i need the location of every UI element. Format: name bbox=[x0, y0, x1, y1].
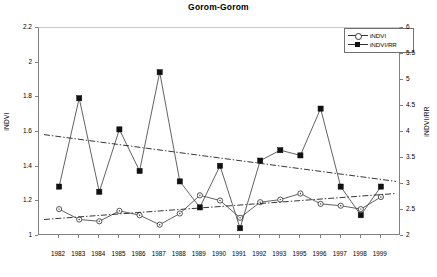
data-point bbox=[358, 213, 363, 218]
data-point bbox=[318, 106, 323, 111]
axis-tick-mark bbox=[340, 235, 341, 238]
axis-tick-mark bbox=[35, 62, 38, 63]
page-title: Gorom-Gorom bbox=[0, 2, 437, 12]
trendline bbox=[44, 135, 396, 182]
axis-tick-mark bbox=[78, 235, 79, 238]
axis-tick-mark bbox=[239, 235, 240, 238]
axis-tick-mark bbox=[35, 235, 38, 236]
axis-tick-label: 5 bbox=[406, 75, 432, 82]
chart-legend: iNDVI iNDVI/RR bbox=[344, 28, 414, 53]
axis-tick-label: 1.4 bbox=[10, 162, 32, 169]
axis-tick-mark bbox=[360, 235, 361, 238]
axis-tick-label: 1999 bbox=[365, 250, 395, 257]
data-point bbox=[238, 226, 243, 231]
axis-tick-mark bbox=[299, 235, 300, 238]
open-circle-marker-icon bbox=[348, 31, 368, 40]
chart-container: { "chart_data": { "type": "line", "title… bbox=[0, 0, 437, 277]
data-point bbox=[338, 184, 343, 189]
axis-tick-mark bbox=[259, 235, 260, 238]
axis-tick-label: 5.5 bbox=[406, 49, 432, 56]
data-point-center bbox=[99, 221, 100, 222]
axis-tick-mark bbox=[400, 183, 403, 184]
data-point bbox=[298, 153, 303, 158]
data-point bbox=[177, 179, 182, 184]
data-point-center bbox=[340, 205, 341, 206]
axis-tick-label: 6 bbox=[406, 23, 432, 30]
data-point-center bbox=[79, 219, 80, 220]
data-point-center bbox=[360, 208, 361, 209]
legend-label: iNDVI/RR bbox=[368, 41, 397, 48]
legend-item-indvi-rr: iNDVI/RR bbox=[348, 40, 410, 49]
data-point bbox=[378, 184, 383, 189]
axis-tick-label: 2.2 bbox=[10, 23, 32, 30]
data-point bbox=[278, 148, 283, 153]
axis-tick-mark bbox=[118, 235, 119, 238]
data-point-center bbox=[58, 208, 59, 209]
axis-tick-mark bbox=[219, 235, 220, 238]
data-point-center bbox=[260, 202, 261, 203]
data-point-center bbox=[239, 217, 240, 218]
data-point-center bbox=[300, 193, 301, 194]
data-point-center bbox=[179, 213, 180, 214]
data-point bbox=[77, 96, 82, 101]
axis-tick-mark bbox=[35, 131, 38, 132]
axis-tick-label: 1.8 bbox=[10, 92, 32, 99]
legend-item-indvi: iNDVI bbox=[348, 31, 410, 40]
solid-square-marker-icon bbox=[348, 40, 368, 49]
data-point bbox=[137, 168, 142, 173]
plot-area bbox=[38, 27, 400, 235]
axis-tick-mark bbox=[35, 27, 38, 28]
axis-tick-mark bbox=[380, 235, 381, 238]
y-axis-left-label: iNDVI bbox=[3, 98, 10, 146]
axis-tick-label: 3 bbox=[406, 179, 432, 186]
axis-tick-label: 3.5 bbox=[406, 153, 432, 160]
data-point-center bbox=[119, 210, 120, 211]
axis-tick-mark bbox=[98, 235, 99, 238]
axis-tick-label: 2 bbox=[10, 58, 32, 65]
axis-tick-mark bbox=[320, 235, 321, 238]
axis-tick-label: 1 bbox=[10, 231, 32, 238]
axis-tick-mark bbox=[35, 166, 38, 167]
data-point bbox=[217, 163, 222, 168]
data-point bbox=[97, 189, 102, 194]
axis-tick-mark bbox=[400, 53, 403, 54]
axis-tick-mark bbox=[400, 79, 403, 80]
axis-tick-mark bbox=[139, 235, 140, 238]
axis-tick-label: 4.5 bbox=[406, 101, 432, 108]
axis-tick-mark bbox=[199, 235, 200, 238]
axis-tick-mark bbox=[400, 131, 403, 132]
axis-tick-label: 2 bbox=[406, 231, 432, 238]
axis-tick-mark bbox=[400, 157, 403, 158]
data-point bbox=[57, 184, 62, 189]
axis-tick-mark bbox=[179, 235, 180, 238]
data-point bbox=[258, 158, 263, 163]
data-point-center bbox=[219, 200, 220, 201]
data-point bbox=[117, 127, 122, 132]
data-point bbox=[197, 205, 202, 210]
data-point-center bbox=[380, 196, 381, 197]
series-indvi bbox=[57, 191, 384, 227]
axis-tick-mark bbox=[400, 105, 403, 106]
axis-tick-mark bbox=[58, 235, 59, 238]
series-layer bbox=[39, 28, 401, 236]
legend-label: iNDVI bbox=[368, 32, 386, 39]
data-point-center bbox=[139, 215, 140, 216]
axis-tick-mark bbox=[400, 27, 403, 28]
axis-tick-label: 2.5 bbox=[406, 205, 432, 212]
data-point bbox=[157, 70, 162, 75]
axis-tick-mark bbox=[400, 209, 403, 210]
axis-tick-mark bbox=[159, 235, 160, 238]
data-point-center bbox=[159, 224, 160, 225]
data-point-center bbox=[320, 203, 321, 204]
axis-tick-mark bbox=[35, 200, 38, 201]
axis-tick-mark bbox=[400, 235, 403, 236]
axis-tick-label: 1.6 bbox=[10, 127, 32, 134]
axis-tick-mark bbox=[279, 235, 280, 238]
data-point-center bbox=[199, 195, 200, 196]
data-point-center bbox=[280, 199, 281, 200]
axis-tick-mark bbox=[35, 96, 38, 97]
axis-tick-label: 4 bbox=[406, 127, 432, 134]
axis-tick-label: 1.2 bbox=[10, 196, 32, 203]
